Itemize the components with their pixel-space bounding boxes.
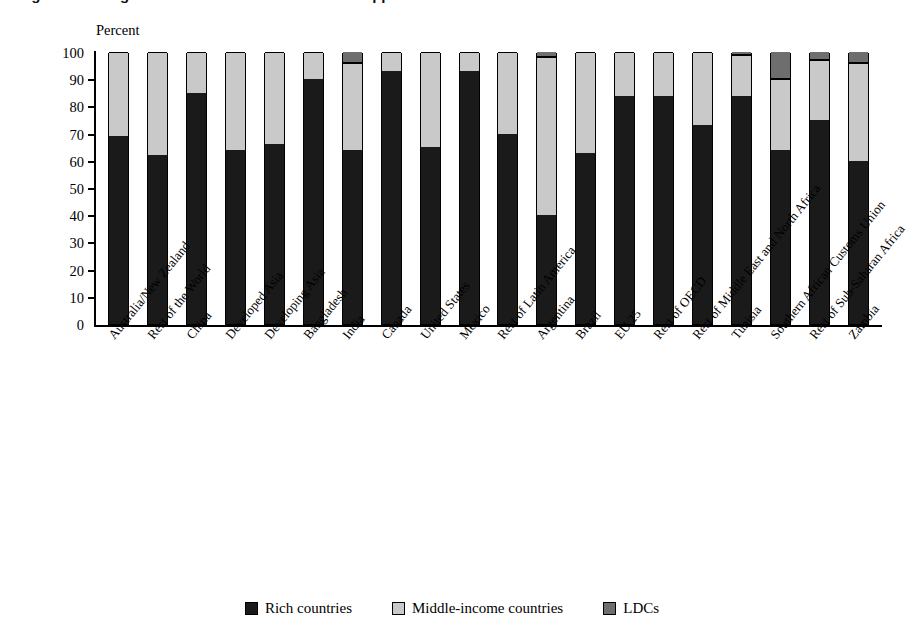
y-tick-mark: [88, 134, 95, 136]
segment-rich-countries: [576, 153, 595, 324]
segment-middle-income-countries: [148, 52, 167, 155]
legend-label: Middle-income countries: [412, 600, 563, 617]
segment-rich-countries: [654, 96, 673, 324]
y-tick-mark: [88, 188, 95, 190]
segment-ldcs: [771, 52, 790, 79]
y-tick-mark: [88, 270, 95, 272]
segment-middle-income-countries: [460, 52, 479, 71]
legend-item[interactable]: Middle-income countries: [392, 600, 563, 617]
segment-ldcs: [343, 52, 362, 63]
segment-middle-income-countries: [498, 52, 517, 134]
segment-rich-countries: [109, 136, 128, 324]
y-tick-mark: [88, 297, 95, 299]
segment-middle-income-countries: [343, 63, 362, 150]
y-tick-mark: [88, 79, 95, 81]
legend-item[interactable]: LDCs: [603, 600, 659, 617]
segment-middle-income-countries: [265, 52, 284, 144]
segment-middle-income-countries: [693, 52, 712, 125]
segment-rich-countries: [226, 150, 245, 324]
bar-india[interactable]: [342, 53, 363, 325]
segment-ldcs: [810, 52, 829, 60]
bar-united-states[interactable]: [420, 53, 441, 325]
legend-label: Rich countries: [265, 600, 352, 617]
plot-area: [96, 53, 880, 325]
segment-rich-countries: [615, 96, 634, 324]
segment-middle-income-countries: [732, 55, 751, 96]
bar-developed-asia[interactable]: [225, 53, 246, 325]
segment-middle-income-countries: [226, 52, 245, 150]
y-tick-label: 80: [48, 100, 84, 115]
bar-rest-of-latin-america[interactable]: [497, 53, 518, 325]
legend-item[interactable]: Rich countries: [245, 600, 352, 617]
legend-swatch-icon: [392, 602, 405, 615]
bar-eu-25[interactable]: [614, 53, 635, 325]
segment-middle-income-countries: [421, 52, 440, 147]
segment-ldcs: [537, 52, 556, 57]
y-tick-label: 60: [48, 155, 84, 170]
segment-ldcs: [732, 52, 751, 55]
y-tick-label: 0: [48, 318, 84, 333]
bar-brazil[interactable]: [575, 53, 596, 325]
bar-southern-african-customs-union[interactable]: [770, 53, 791, 325]
y-tick-label: 100: [48, 46, 84, 61]
chart-legend: Rich countriesMiddle-income countriesLDC…: [0, 600, 904, 617]
y-tick-label: 90: [48, 73, 84, 88]
segment-middle-income-countries: [109, 52, 128, 136]
segment-rich-countries: [498, 134, 517, 324]
y-tick-mark: [88, 106, 95, 108]
legend-swatch-icon: [603, 602, 616, 615]
segment-rich-countries: [382, 71, 401, 324]
segment-middle-income-countries: [576, 52, 595, 153]
segment-middle-income-countries: [382, 52, 401, 71]
y-tick-label: 10: [48, 291, 84, 306]
y-tick-mark: [88, 215, 95, 217]
legend-label: LDCs: [623, 600, 659, 617]
segment-middle-income-countries: [771, 79, 790, 150]
y-axis-tick-labels: 1009080706050403020100: [44, 0, 84, 641]
bar-australia-new-zealand[interactable]: [108, 53, 129, 325]
y-tick-mark: [88, 161, 95, 163]
y-axis-title: Percent: [96, 22, 139, 39]
y-tick-label: 40: [48, 209, 84, 224]
segment-middle-income-countries: [615, 52, 634, 96]
x-axis-line: [94, 325, 882, 327]
y-tick-label: 20: [48, 263, 84, 278]
bar-canada[interactable]: [381, 53, 402, 325]
y-tick-label: 50: [48, 182, 84, 197]
y-tick-label: 70: [48, 127, 84, 142]
legend-swatch-icon: [245, 602, 258, 615]
segment-ldcs: [849, 52, 868, 63]
bar-rest-of-oecd[interactable]: [653, 53, 674, 325]
segment-middle-income-countries: [810, 60, 829, 120]
segment-middle-income-countries: [187, 52, 206, 93]
y-tick-mark: [88, 242, 95, 244]
segment-rich-countries: [421, 147, 440, 324]
segment-middle-income-countries: [537, 57, 556, 215]
segment-middle-income-countries: [849, 63, 868, 161]
y-tick-label: 30: [48, 236, 84, 251]
segment-middle-income-countries: [304, 52, 323, 79]
segment-middle-income-countries: [654, 52, 673, 96]
